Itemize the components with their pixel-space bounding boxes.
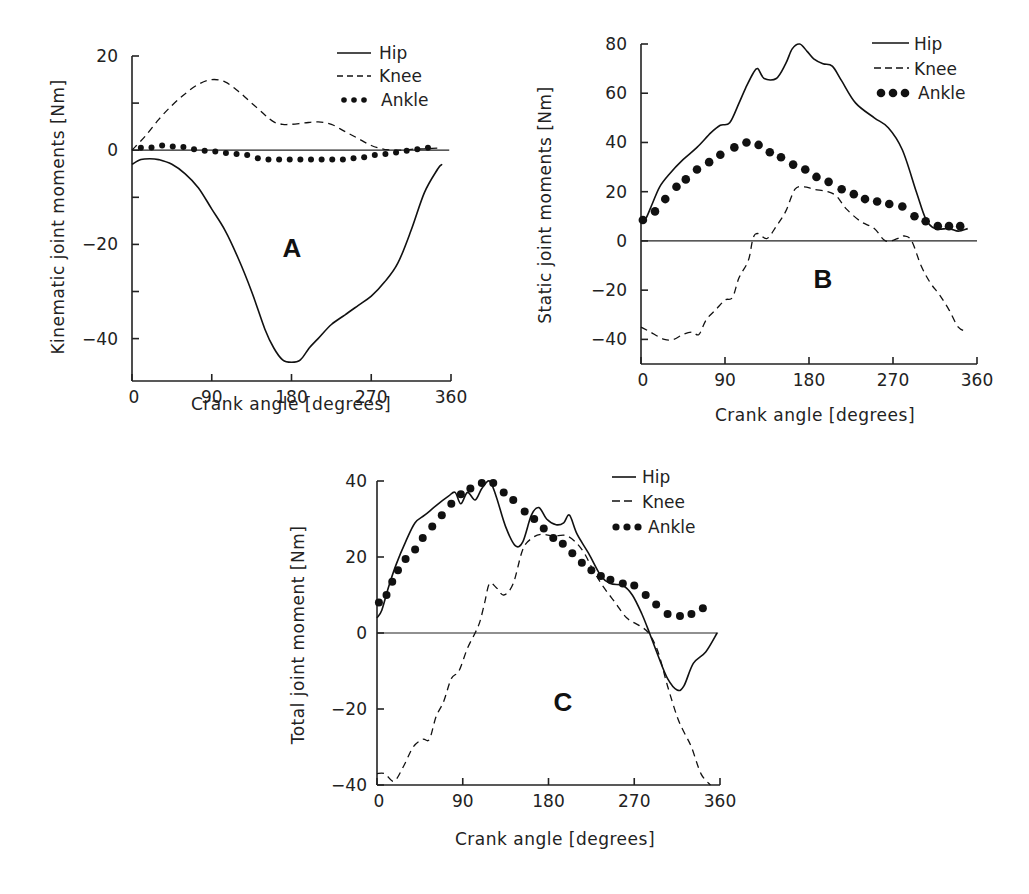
data-point-ankle: [276, 157, 282, 163]
data-point-ankle: [597, 572, 605, 580]
y-axis-label-c: Total joint moment [Nm]: [288, 526, 308, 746]
data-point-ankle: [402, 555, 410, 563]
data-point-ankle: [419, 534, 427, 542]
data-point-ankle: [255, 155, 261, 161]
data-point-ankle: [202, 148, 208, 154]
legend-label-hip-c: Hip: [642, 467, 670, 487]
legend-swatch-ankle-b: [877, 89, 910, 98]
y-axis-label-b: Static joint moments [Nm]: [535, 86, 555, 323]
data-point-ankle: [382, 151, 388, 157]
data-point-ankle: [404, 148, 410, 154]
data-point-ankle: [234, 151, 240, 157]
y-tick-label-c: −40: [331, 775, 367, 795]
data-point-ankle: [766, 148, 775, 157]
data-point-ankle: [530, 515, 538, 523]
data-point-ankle: [170, 143, 176, 149]
y-tick-label-a: 20: [96, 46, 118, 66]
data-point-ankle: [754, 141, 763, 150]
data-point-ankle: [148, 144, 154, 150]
series-line-hip-c: [377, 481, 717, 691]
x-axis-label-b: Crank angle [degrees]: [715, 405, 915, 425]
data-point-ankle: [699, 604, 707, 612]
data-point-ankle: [742, 138, 751, 147]
data-point-ankle: [661, 195, 670, 204]
data-point-ankle: [393, 150, 399, 156]
data-point-ankle: [411, 545, 419, 553]
data-point-ankle: [873, 197, 882, 206]
x-axis-label-a: Crank angle [degrees]: [191, 394, 391, 414]
panel-label-c: C: [554, 687, 573, 717]
legend-label-ankle-a: Ankle: [381, 90, 428, 110]
x-tick-label-a: 360: [435, 387, 467, 407]
data-point-ankle: [466, 485, 474, 493]
x-tick-label-b: 270: [877, 370, 909, 390]
data-point-ankle: [509, 496, 517, 504]
data-point-ankle: [244, 152, 250, 158]
data-point-ankle: [682, 175, 691, 184]
data-point-ankle: [521, 507, 529, 515]
data-point-ankle: [652, 601, 660, 609]
legend-b: Hip Knee Ankle: [872, 34, 965, 103]
chart-panel-c: 40200−20−40090180270360 C Crank angle [d…: [288, 467, 736, 849]
data-point-ankle: [619, 580, 627, 588]
data-point-ankle: [212, 149, 218, 155]
data-point-ankle: [319, 157, 325, 163]
data-point-ankle: [372, 152, 378, 158]
y-tick-label-a: 0: [107, 140, 118, 160]
y-axis-label-a: Kinematic joint moments [Nm]: [48, 79, 68, 354]
data-point-ankle: [297, 157, 303, 163]
y-tick-label-b: 0: [616, 231, 627, 251]
series-line-knee-b: [641, 186, 968, 340]
y-tick-label-c: 40: [345, 471, 367, 491]
legend-label-knee-a: Knee: [379, 66, 422, 86]
data-point-ankle: [777, 153, 786, 162]
data-point-ankle: [693, 165, 702, 174]
data-point-ankle: [789, 160, 798, 169]
data-point-ankle: [138, 145, 144, 151]
panel-label-b: B: [814, 264, 833, 294]
y-tick-label-c: 0: [356, 623, 367, 643]
data-point-ankle: [388, 578, 396, 586]
data-point-ankle: [812, 173, 821, 182]
data-point-ankle: [945, 222, 954, 231]
data-point-ankle: [414, 146, 420, 152]
x-tick-label-c: 270: [618, 791, 650, 811]
data-point-ankle: [730, 143, 739, 152]
x-tick-label-b: 360: [961, 370, 993, 390]
data-point-ankle: [265, 157, 271, 163]
x-tick-label-c: 90: [452, 791, 474, 811]
x-tick-label-c: 0: [374, 791, 385, 811]
data-point-ankle: [361, 154, 367, 160]
y-tick-label-c: −20: [331, 699, 367, 719]
data-point-ankle: [394, 566, 402, 574]
legend-swatch-ankle-c: [612, 523, 641, 530]
data-point-ankle: [676, 612, 684, 620]
figure-canvas: 200−20−40090180270360 A Crank angle [deg…: [0, 0, 1029, 894]
legend-label-hip-b: Hip: [914, 34, 942, 54]
x-tick-label-b: 90: [714, 370, 736, 390]
data-point-ankle: [705, 158, 714, 167]
y-tick-label-b: 80: [605, 34, 627, 54]
data-point-ankle: [606, 576, 614, 584]
data-point-ankle: [687, 610, 695, 618]
series-ankle-b: [639, 138, 965, 230]
data-point-ankle: [642, 591, 650, 599]
data-point-ankle: [850, 190, 859, 199]
y-tick-label-a: −40: [82, 329, 118, 349]
data-point-ankle: [921, 217, 930, 226]
chart-panel-a: 200−20−40090180270360 A Crank angle [deg…: [48, 43, 467, 414]
data-point-ankle: [500, 488, 508, 496]
data-point-ankle: [578, 559, 586, 567]
data-point-ankle: [801, 165, 810, 174]
data-point-ankle: [861, 195, 870, 204]
data-point-ankle: [630, 582, 638, 590]
data-point-ankle: [956, 222, 965, 231]
data-point-ankle: [898, 202, 907, 211]
legend-label-ankle-c: Ankle: [648, 517, 695, 537]
y-tick-label-b: −20: [591, 280, 627, 300]
y-tick-label-b: 60: [605, 83, 627, 103]
data-point-ankle: [672, 182, 681, 191]
data-point-ankle: [651, 207, 660, 216]
data-point-ankle: [478, 479, 486, 487]
series-line-knee-c: [377, 534, 711, 785]
